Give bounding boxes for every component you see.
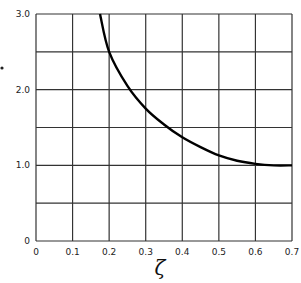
y-tick-label: 3.0 (16, 9, 31, 19)
y-axis-label-fragment (0, 66, 3, 69)
grid (36, 14, 292, 241)
x-tick-label: 0.7 (285, 247, 299, 257)
x-tick-label: 0.2 (102, 247, 116, 257)
x-tick-label: 0.4 (175, 247, 190, 257)
x-axis-label: ζ (155, 256, 167, 280)
y-tick-label: 0 (24, 236, 30, 246)
y-tick-label: 1.0 (16, 160, 31, 170)
x-tick-label: 0.3 (139, 247, 153, 257)
x-tick-label: 0 (33, 247, 39, 257)
y-tick-labels: 01.02.03.0 (16, 9, 31, 246)
x-tick-label: 0.5 (212, 247, 226, 257)
x-tick-label: 0.1 (65, 247, 79, 257)
chart: 01.02.03.0 00.10.20.30.40.50.60.7 ζ (0, 0, 301, 283)
x-tick-labels: 00.10.20.30.40.50.60.7 (33, 247, 299, 257)
x-tick-label: 0.6 (248, 247, 263, 257)
y-tick-label: 2.0 (16, 85, 31, 95)
